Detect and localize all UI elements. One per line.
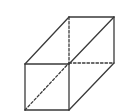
cuboid-diagram <box>0 0 128 112</box>
cuboid-wireframe-figure <box>0 0 128 112</box>
solid-edge-6 <box>69 17 114 64</box>
solid-edge-4 <box>25 17 69 64</box>
dashed-edge-2 <box>25 63 69 110</box>
solid-edge-8 <box>69 63 114 110</box>
